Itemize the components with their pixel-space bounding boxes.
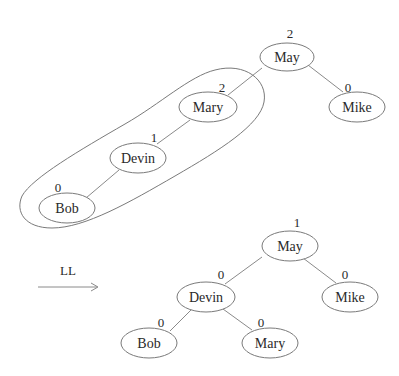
- svg-text:Mike: Mike: [335, 290, 365, 305]
- edge-mary-devin: [157, 120, 190, 144]
- edge-may-mike: [303, 258, 336, 283]
- node-mary: Mary 0: [242, 315, 298, 358]
- node-mike: Mike 0: [322, 267, 378, 312]
- rotation-label: LL: [60, 263, 76, 278]
- node-devin: Devin 1: [110, 130, 166, 173]
- node-may: May 1: [262, 215, 318, 261]
- svg-text:May: May: [274, 50, 300, 65]
- balance-factor: 0: [55, 180, 62, 195]
- edge-devin-bob: [86, 170, 119, 198]
- tree-before: May 2 Mary 2 Mike 0 Devin 1 Bob 0: [20, 26, 385, 228]
- svg-text:Bob: Bob: [55, 201, 78, 216]
- rotation-arrow: LL: [38, 263, 98, 291]
- svg-text:Mike: Mike: [342, 100, 372, 115]
- node-mary: Mary 2: [179, 80, 237, 122]
- svg-text:Devin: Devin: [121, 151, 155, 166]
- edge-may-devin: [225, 257, 262, 284]
- svg-text:Bob: Bob: [137, 336, 160, 351]
- node-bob: Bob 0: [121, 315, 177, 358]
- node-mike: Mike 0: [329, 80, 385, 122]
- balance-factor: 0: [158, 315, 165, 330]
- avl-rotation-diagram: May 2 Mary 2 Mike 0 Devin 1 Bob 0 LL: [0, 0, 399, 376]
- balance-factor: 2: [219, 80, 226, 95]
- balance-factor: 0: [345, 80, 352, 95]
- svg-text:Mary: Mary: [255, 336, 285, 351]
- balance-factor: 2: [287, 26, 294, 41]
- edge-devin-mary: [223, 309, 252, 330]
- diagram-canvas: May 2 Mary 2 Mike 0 Devin 1 Bob 0 LL: [0, 0, 399, 376]
- node-may: May 2: [260, 26, 314, 71]
- svg-text:May: May: [277, 239, 303, 254]
- balance-factor: 1: [294, 215, 301, 230]
- svg-text:Mary: Mary: [193, 100, 223, 115]
- balance-factor: 0: [258, 315, 265, 330]
- balance-factor: 0: [342, 267, 349, 282]
- edge-may-mike: [308, 65, 343, 92]
- edge-may-mary: [228, 68, 262, 95]
- balance-factor: 1: [151, 130, 158, 145]
- edge-devin-bob: [170, 309, 192, 331]
- node-devin: Devin 0: [177, 267, 235, 312]
- tree-after: May 1 Devin 0 Mike 0 Bob 0 Mary 0: [121, 215, 378, 358]
- svg-text:Devin: Devin: [189, 290, 223, 305]
- node-bob: Bob 0: [39, 180, 95, 223]
- balance-factor: 0: [218, 267, 225, 282]
